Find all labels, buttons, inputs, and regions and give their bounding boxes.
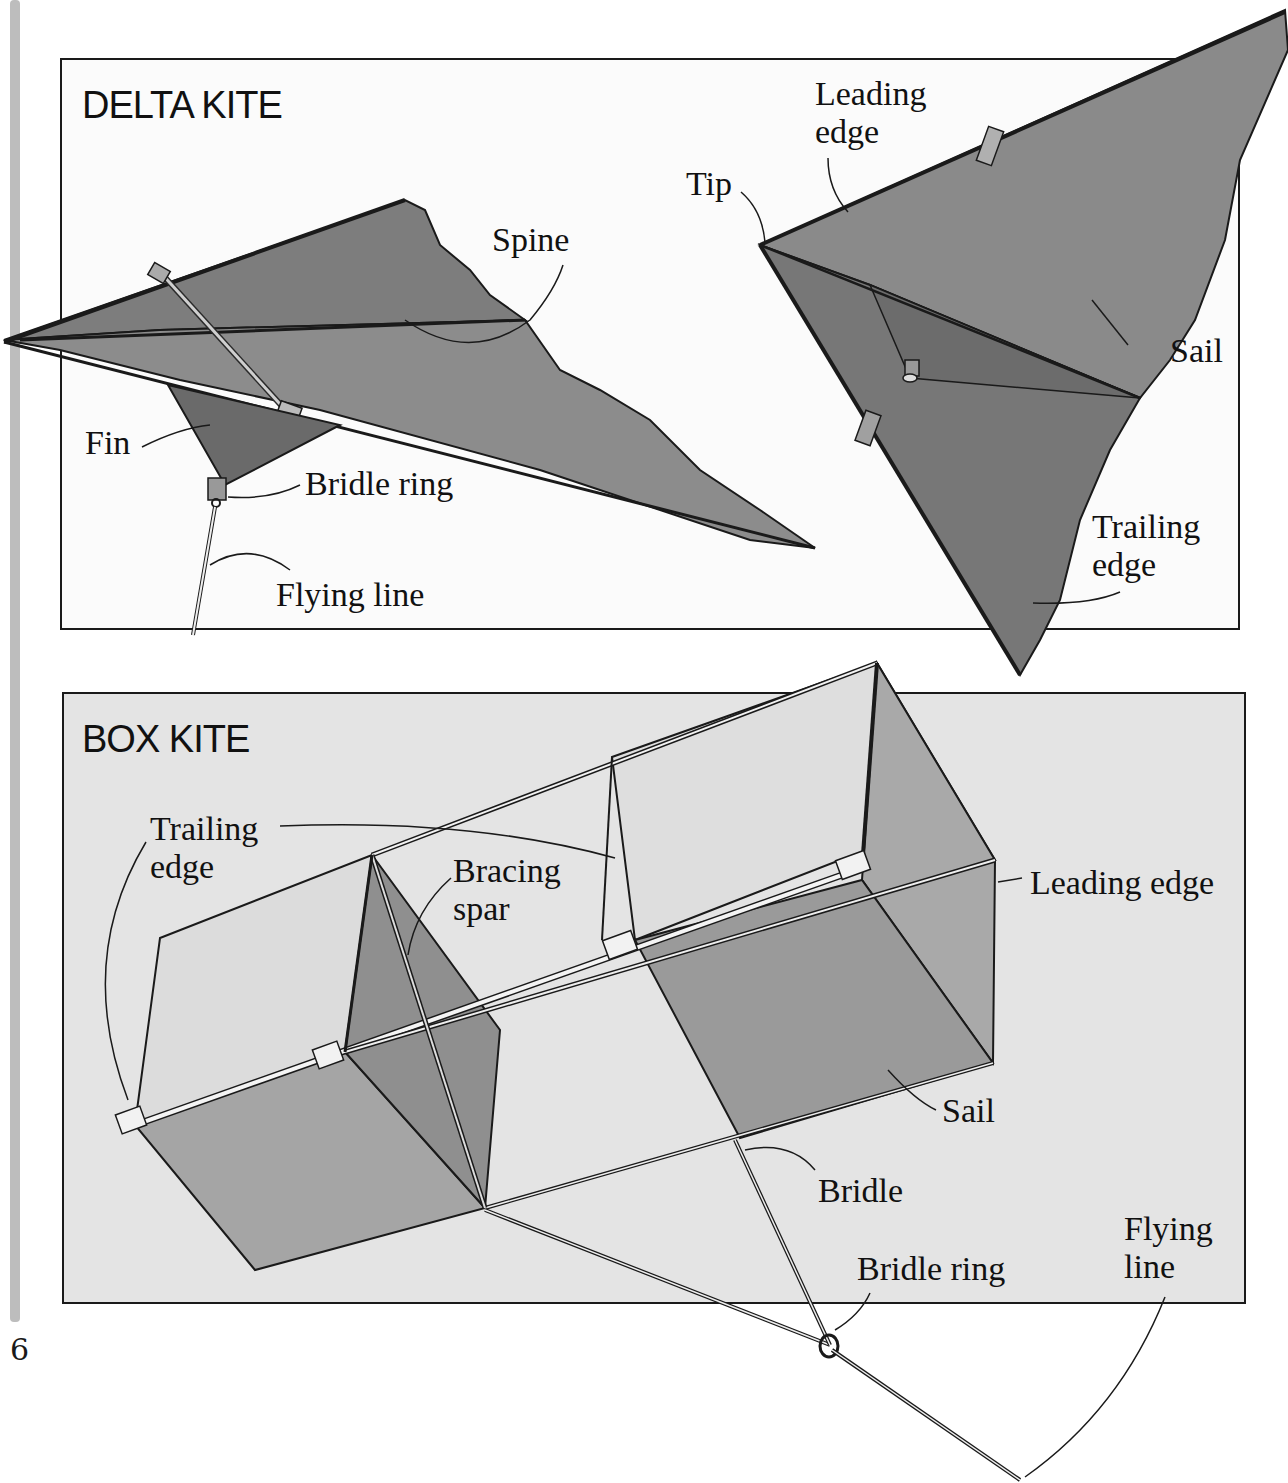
label-bracing-spar: Bracing spar — [453, 852, 561, 928]
delta-kite-title: DELTA KITE — [82, 84, 282, 127]
box-kite-title: BOX KITE — [82, 718, 249, 761]
label-bridle-ring-delta: Bridle ring — [305, 465, 453, 503]
book-page: DELTA KITE BOX KITE Spine Fin Bridle rin… — [0, 0, 1288, 1483]
box-kite-illustration — [105, 663, 1165, 1480]
label-flying-line-box: Flying line — [1124, 1210, 1213, 1286]
label-bridle-ring-box: Bridle ring — [857, 1250, 1005, 1288]
label-bridle: Bridle — [818, 1172, 903, 1210]
label-fin: Fin — [85, 424, 130, 462]
delta-kite-left-illustration — [4, 200, 815, 635]
label-flying-line-delta: Flying line — [276, 576, 424, 614]
label-leading-edge-box: Leading edge — [1030, 864, 1214, 902]
label-sail-box: Sail — [942, 1092, 995, 1130]
label-tip: Tip — [686, 165, 732, 203]
label-trailing-edge-delta: Trailing edge — [1092, 508, 1200, 584]
label-leading-edge-delta: Leading edge — [815, 75, 926, 151]
label-sail-delta: Sail — [1170, 332, 1223, 370]
page-number: 6 — [10, 1332, 29, 1367]
label-trailing-edge-box: Trailing edge — [150, 810, 258, 886]
label-spine: Spine — [492, 221, 569, 259]
